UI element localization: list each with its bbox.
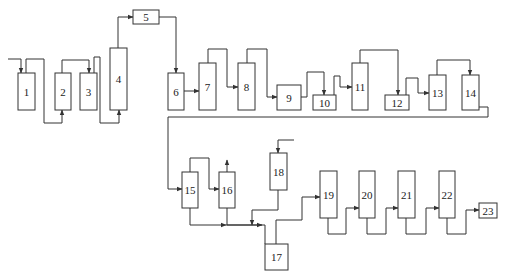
unit-label: 21 xyxy=(401,189,412,201)
unit-12: 12 xyxy=(385,95,409,110)
unit-15: 15 xyxy=(182,172,198,208)
unit-label: 13 xyxy=(432,87,444,99)
unit-label: 9 xyxy=(286,92,292,104)
flow-line-9-to-10 xyxy=(301,72,324,97)
unit-23: 23 xyxy=(479,203,497,218)
flow-line-18-to-17 xyxy=(252,190,278,225)
flow-line-13-to-14 xyxy=(437,60,470,75)
unit-19: 19 xyxy=(320,171,337,218)
diagram-svg: 1234567891011121314151617181920212223 xyxy=(0,0,505,279)
unit-label: 1 xyxy=(24,86,30,98)
unit-13: 13 xyxy=(429,75,446,110)
unit-8: 8 xyxy=(238,63,255,110)
unit-16: 16 xyxy=(219,172,235,208)
unit-14: 14 xyxy=(462,75,479,110)
flow-line-10-to-11 xyxy=(334,76,352,95)
unit-label: 3 xyxy=(86,86,92,98)
flow-line-12-to-13 xyxy=(406,78,429,95)
flow-line-feed18-to-18 xyxy=(278,140,294,153)
unit-label: 22 xyxy=(442,189,453,201)
unit-label: 6 xyxy=(173,86,179,98)
unit-9: 9 xyxy=(277,85,301,110)
unit-label: 19 xyxy=(323,189,335,201)
unit-label: 20 xyxy=(362,189,374,201)
unit-21: 21 xyxy=(398,171,415,218)
unit-11: 11 xyxy=(352,63,368,110)
flow-line-feed-to-1 xyxy=(8,59,21,73)
flow-line-5-to-6 xyxy=(159,17,176,73)
flow-line-16-to-17 xyxy=(227,208,262,225)
unit-22: 22 xyxy=(439,171,455,218)
unit-6: 6 xyxy=(168,73,184,110)
unit-18: 18 xyxy=(270,153,287,190)
unit-label: 17 xyxy=(271,251,283,263)
flow-line-17-to-19 xyxy=(276,197,320,244)
process-flow-diagram: 1234567891011121314151617181920212223 xyxy=(0,0,505,279)
unit-label: 16 xyxy=(222,184,234,196)
unit-label: 15 xyxy=(185,184,197,196)
flow-line-15-to-17 xyxy=(190,208,226,225)
unit-label: 12 xyxy=(392,97,403,109)
flow-line-2-to-3 xyxy=(62,60,89,73)
flow-line-4-to-5 xyxy=(118,17,133,48)
flow-line-16-merge-to-17 xyxy=(226,225,265,244)
unit-label: 23 xyxy=(483,205,495,217)
unit-label: 11 xyxy=(355,81,366,93)
unit-label: 14 xyxy=(465,87,477,99)
unit-label: 10 xyxy=(319,97,331,109)
connections-layer xyxy=(8,17,488,244)
unit-label: 4 xyxy=(116,73,122,85)
unit-1: 1 xyxy=(18,73,35,110)
unit-3: 3 xyxy=(80,73,97,110)
unit-label: 18 xyxy=(273,166,285,178)
unit-label: 2 xyxy=(60,86,66,98)
unit-label: 5 xyxy=(143,11,149,23)
unit-20: 20 xyxy=(359,171,375,218)
unit-7: 7 xyxy=(199,63,216,110)
unit-17: 17 xyxy=(265,244,288,270)
unit-5: 5 xyxy=(133,10,159,24)
unit-10: 10 xyxy=(313,95,336,110)
unit-4: 4 xyxy=(110,48,127,110)
unit-label: 8 xyxy=(244,81,250,93)
unit-2: 2 xyxy=(55,73,71,110)
unit-label: 7 xyxy=(205,81,211,93)
